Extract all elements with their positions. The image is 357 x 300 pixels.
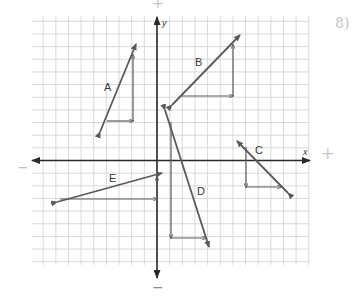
- vector-label-d: D: [197, 186, 205, 197]
- coordinate-plane-worksheet: + − − + 8) y x A B C D E: [0, 0, 357, 300]
- bottom-minus-mark: −: [152, 280, 164, 294]
- corner-mark: 8): [335, 16, 349, 30]
- left-minus-mark: −: [17, 160, 29, 174]
- vector-label-c: C: [255, 145, 263, 156]
- right-plus-mark: +: [321, 146, 334, 162]
- x-axis-label: x: [303, 148, 308, 157]
- vector-label-b: B: [195, 57, 202, 68]
- vector-label-a: A: [104, 82, 111, 93]
- vector-label-e: E: [109, 173, 116, 184]
- y-axis-label: y: [162, 19, 167, 28]
- top-plus-mark: +: [152, 0, 164, 10]
